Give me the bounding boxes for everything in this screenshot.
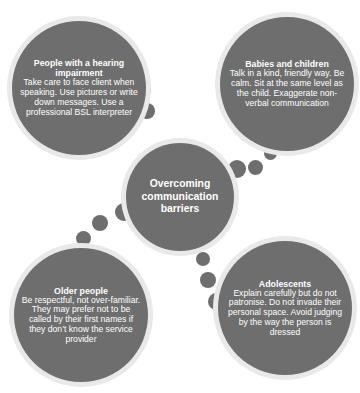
node-babies-and-children[interactable]: Babies and children Talk in a kind, frie… xyxy=(220,17,354,151)
node-hearing-impairment-body: Take care to face client when speaking. … xyxy=(18,78,140,117)
node-hub-title: Overcoming communication barriers xyxy=(132,178,228,216)
connector-dot-babies-1 xyxy=(228,160,246,178)
connector-dot-adolescents-1 xyxy=(196,252,210,266)
node-adolescents[interactable]: Adolescents Explain carefully but do not… xyxy=(218,241,352,375)
node-babies-and-children-content: Babies and children Talk in a kind, frie… xyxy=(220,59,354,108)
node-older-people-content: Older people Be respectful, not over-fam… xyxy=(14,286,148,345)
connector-dot-older-3 xyxy=(76,231,91,246)
node-older-people-body: Be respectful, not over-familiar. They m… xyxy=(20,296,142,345)
node-adolescents-body: Explain carefully but do not patronise. … xyxy=(224,289,346,338)
node-older-people-title: Older people xyxy=(20,286,142,296)
node-adolescents-content: Adolescents Explain carefully but do not… xyxy=(218,279,352,338)
node-hearing-impairment-content: People with a hearing impairment Take ca… xyxy=(12,58,146,117)
connector-dot-babies-2 xyxy=(248,160,263,175)
communication-barriers-diagram: People with a hearing impairment Take ca… xyxy=(0,0,360,393)
node-older-people[interactable]: Older people Be respectful, not over-fam… xyxy=(14,248,148,382)
node-babies-and-children-body: Talk in a kind, friendly way. Be calm. S… xyxy=(226,69,348,108)
node-hub-overcoming-communication-barriers[interactable]: Overcoming communication barriers xyxy=(126,143,234,251)
node-hearing-impairment-title: People with a hearing impairment xyxy=(18,58,140,78)
connector-dot-older-2 xyxy=(92,215,108,231)
node-adolescents-title: Adolescents xyxy=(224,279,346,289)
connector-dot-adolescents-2 xyxy=(200,272,216,288)
node-hub-content: Overcoming communication barriers xyxy=(126,178,234,216)
node-hearing-impairment[interactable]: People with a hearing impairment Take ca… xyxy=(12,21,146,155)
